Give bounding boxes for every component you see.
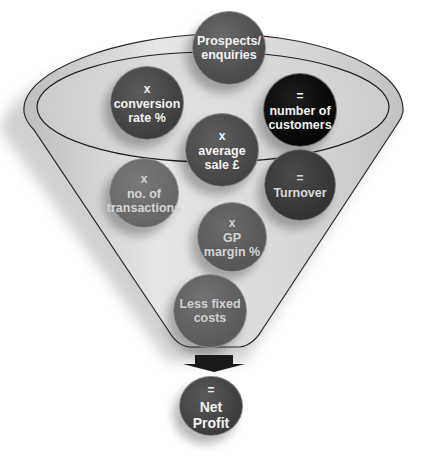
bubble-conversion-rate: x conversion rate % bbox=[110, 66, 184, 140]
operator-multiply: x bbox=[229, 216, 236, 230]
bubble-line: conversion bbox=[114, 97, 181, 111]
bubble-line: sale £ bbox=[205, 158, 240, 172]
bubble-line: Turnover bbox=[273, 186, 326, 200]
operator-equals: = bbox=[296, 171, 303, 185]
bubble-turnover: = Turnover bbox=[264, 149, 336, 221]
bubble-less-fixed-costs: Less fixed costs bbox=[173, 274, 247, 348]
bubble-line: Net bbox=[200, 399, 223, 415]
bubble-average-sale: x average sale £ bbox=[185, 113, 259, 187]
bubble-no-of-transactions: x no. of transactions bbox=[109, 158, 179, 228]
bubble-number-of-customers: = number of customers bbox=[263, 73, 337, 147]
bubble-prospects: Prospects/ enquiries bbox=[192, 11, 266, 85]
bubble-line: Less fixed bbox=[179, 297, 240, 311]
operator-equals: = bbox=[207, 382, 214, 398]
operator-equals: = bbox=[296, 89, 303, 103]
bubble-line: number of bbox=[269, 104, 330, 118]
bubble-line: no. of bbox=[127, 187, 161, 201]
bubble-gp-margin: x GP margin % bbox=[197, 202, 267, 272]
bubble-line: margin % bbox=[204, 245, 260, 259]
operator-multiply: x bbox=[141, 172, 148, 186]
bubble-line: rate % bbox=[128, 111, 166, 125]
bubble-line: transactions bbox=[107, 201, 181, 215]
bubble-line: customers bbox=[268, 118, 331, 132]
bubble-line: enquiries bbox=[201, 48, 257, 62]
bubble-line: average bbox=[198, 144, 245, 158]
bubble-line: GP bbox=[223, 231, 241, 245]
bubble-line: costs bbox=[194, 311, 227, 325]
profit-funnel-diagram: Prospects/ enquiries x conversion rate %… bbox=[0, 0, 424, 458]
down-arrow-icon bbox=[181, 355, 247, 373]
bubble-line: Prospects/ bbox=[197, 34, 261, 48]
operator-multiply: x bbox=[219, 129, 226, 143]
operator-multiply: x bbox=[144, 82, 151, 96]
bubble-line: Profit bbox=[193, 415, 230, 431]
bubble-net-profit: = Net Profit bbox=[179, 376, 243, 436]
